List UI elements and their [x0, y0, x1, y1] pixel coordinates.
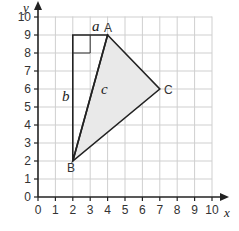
- x-axis-label: x: [223, 205, 230, 220]
- x-tick-label: 3: [87, 203, 94, 217]
- y-axis-label: y: [21, 0, 29, 15]
- y-tick-label: 9: [24, 28, 31, 42]
- y-tick-label: 8: [24, 46, 31, 60]
- x-tick-label: 0: [35, 203, 42, 217]
- x-tick-label: 6: [139, 203, 146, 217]
- point-b-label: B: [67, 161, 75, 175]
- point-a-label: A: [104, 21, 112, 35]
- x-tick-label: 8: [174, 203, 181, 217]
- x-tick-label: 7: [156, 203, 163, 217]
- side-a-label: a: [92, 18, 100, 34]
- y-tick-label: 4: [24, 118, 31, 132]
- x-tick-label: 2: [69, 203, 76, 217]
- y-tick-label: 7: [24, 64, 31, 78]
- point-c-label: C: [164, 83, 173, 97]
- y-tick-label: 0: [24, 190, 31, 204]
- y-tick-label: 3: [24, 136, 31, 150]
- x-tick-label: 9: [191, 203, 198, 217]
- y-tick-label: 1: [24, 172, 31, 186]
- x-axis-arrow-icon: [220, 193, 229, 201]
- x-tick-label: 1: [52, 203, 59, 217]
- y-tick-label: 2: [24, 154, 31, 168]
- x-tick-label: 4: [104, 203, 111, 217]
- triangle-abc-fill: [73, 35, 160, 161]
- y-axis-arrow-icon: [34, 1, 42, 10]
- side-b-label: b: [62, 88, 70, 104]
- side-c-label: c: [101, 81, 108, 97]
- right-angle-marker-icon: [73, 35, 90, 53]
- coordinate-grid-diagram: 012345678910012345678910 x y A B C a b c: [0, 0, 239, 231]
- x-tick-label: 10: [205, 203, 219, 217]
- y-tick-label: 6: [24, 82, 31, 96]
- y-tick-label: 5: [24, 100, 31, 114]
- x-tick-label: 5: [122, 203, 129, 217]
